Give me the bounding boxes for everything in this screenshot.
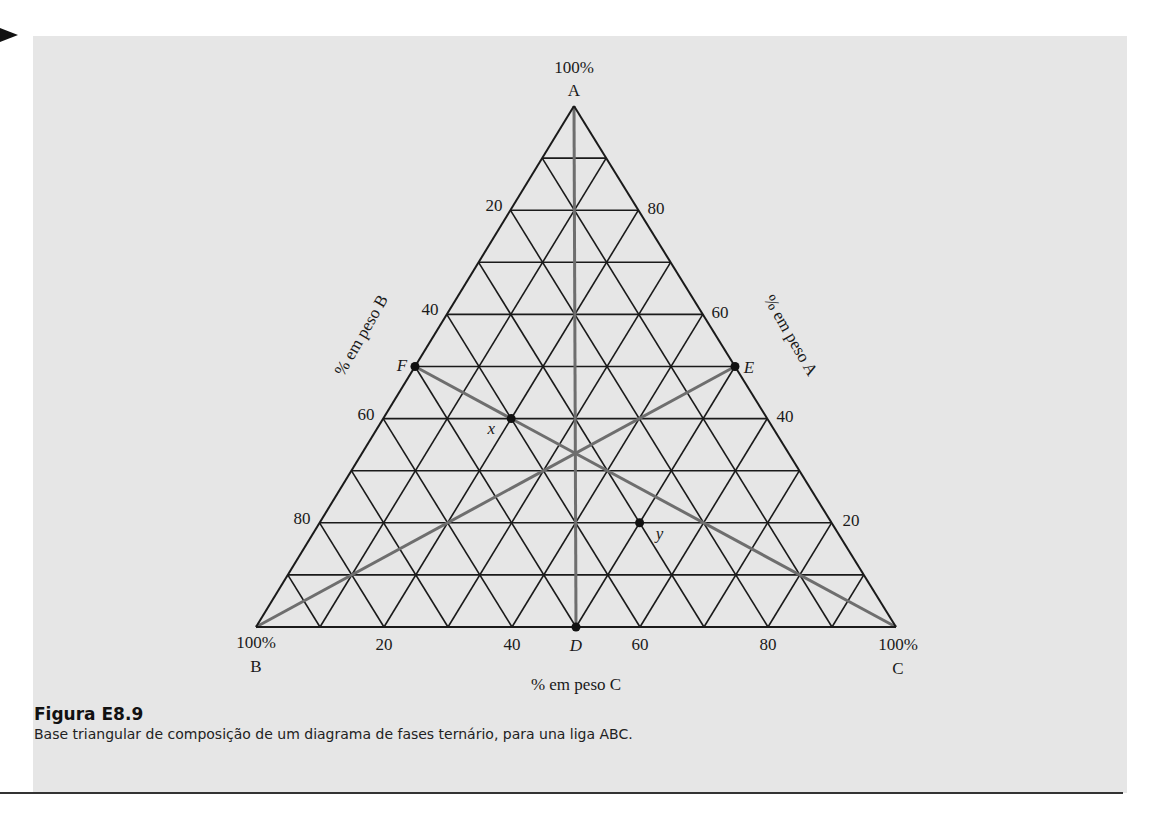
vertex-a-percent: 100% xyxy=(554,58,594,77)
left-axis-title: % em peso B xyxy=(330,291,392,379)
right-tick: 20 xyxy=(843,511,860,530)
vertex-b-percent: 100% xyxy=(236,633,276,652)
figure-caption: Base triangular de composição de um diag… xyxy=(34,726,633,742)
bottom-tick: 20 xyxy=(376,635,393,654)
left-tick: 20 xyxy=(486,196,503,215)
point-E xyxy=(731,362,740,371)
bottom-tick: 40 xyxy=(504,635,521,654)
right-tick: 40 xyxy=(777,407,794,426)
tie-line-A-D xyxy=(574,106,576,627)
bottom-axis-title: % em peso C xyxy=(531,675,621,694)
bottom-rule xyxy=(0,792,1123,794)
left-tick: 40 xyxy=(422,300,439,319)
bottom-tick: 80 xyxy=(760,635,777,654)
point-x xyxy=(507,414,516,423)
vertex-c-label: C xyxy=(892,659,903,678)
left-tick: 80 xyxy=(294,509,311,528)
point-label-D: D xyxy=(569,636,583,655)
right-tick: 60 xyxy=(712,303,729,322)
point-label-F: F xyxy=(396,356,408,375)
vertex-c-percent: 100% xyxy=(878,635,918,654)
bottom-tick: 60 xyxy=(632,635,649,654)
right-tick: 80 xyxy=(648,199,665,218)
point-F xyxy=(411,362,420,371)
point-y xyxy=(635,518,644,527)
point-D xyxy=(572,623,581,632)
point-label-E: E xyxy=(743,358,755,377)
left-tick: 60 xyxy=(358,405,375,424)
vertex-a-label: A xyxy=(568,81,581,100)
right-axis-title: % em peso A xyxy=(760,291,822,379)
figure-title: Figura E8.9 xyxy=(34,704,143,724)
vertex-b-label: B xyxy=(250,657,261,676)
point-label-y: y xyxy=(654,524,664,543)
point-label-x: x xyxy=(486,419,495,438)
ternary-diagram: FEDxy 100% A 100% B 100% C 20 40 60 80 8… xyxy=(0,0,1159,816)
